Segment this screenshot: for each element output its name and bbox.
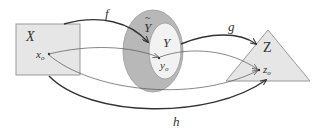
map-g-arrow bbox=[181, 35, 256, 44]
set-z-label: Z bbox=[263, 40, 272, 55]
composition-diagram: X xo Y ~ Y yo Z zo f g h bbox=[0, 0, 326, 133]
set-y-closure-tilde: ~ bbox=[145, 12, 151, 23]
map-g-label: g bbox=[228, 19, 235, 34]
set-y: Y yo bbox=[149, 23, 181, 79]
map-h-label: h bbox=[173, 114, 180, 129]
map-f-label: f bbox=[105, 6, 111, 21]
set-x-label: X bbox=[25, 29, 35, 44]
point-z0 bbox=[258, 69, 260, 71]
set-z: Z zo bbox=[226, 30, 310, 81]
